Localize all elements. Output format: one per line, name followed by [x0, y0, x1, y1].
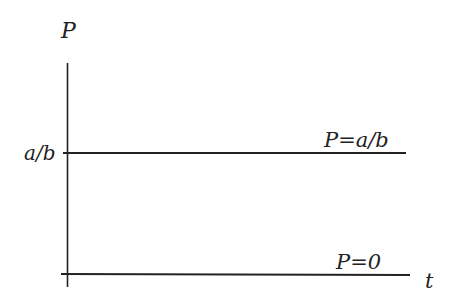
y-tick-label-a-over-b: a/b	[24, 141, 55, 165]
line-p-equals-zero	[61, 274, 410, 275]
x-axis-label: t	[425, 269, 434, 293]
equilibrium-diagram: P a/b P=a/b P=0 t	[0, 0, 453, 302]
upper-line-label: P=a/b	[323, 128, 389, 152]
lower-line-label: P=0	[335, 250, 381, 274]
y-axis-label: P	[60, 18, 77, 43]
